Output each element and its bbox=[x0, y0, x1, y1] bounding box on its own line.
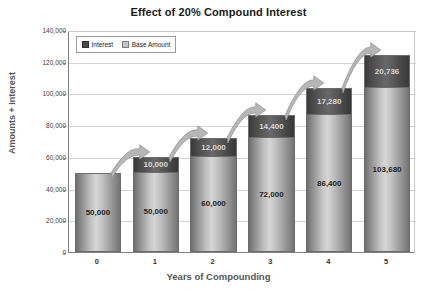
x-tick-label: 3 bbox=[250, 257, 290, 266]
bar-value-label-interest: 10,000 bbox=[144, 160, 168, 169]
x-tick-label: 5 bbox=[366, 257, 406, 266]
bar-group[interactable]: 14,40072,000 bbox=[248, 115, 294, 252]
chart-title: Effect of 20% Compound Interest bbox=[0, 6, 437, 18]
y-tick-label: 60,000 bbox=[6, 154, 66, 161]
bar-segment-base-amount[interactable]: 50,000 bbox=[133, 173, 179, 252]
y-tick-mark bbox=[63, 126, 66, 127]
bar-value-label-base-amount: 72,000 bbox=[259, 190, 283, 199]
y-tick-mark bbox=[63, 190, 66, 191]
y-tick-mark bbox=[63, 63, 66, 64]
y-tick-mark bbox=[63, 253, 66, 254]
y-tick-label: 120,000 bbox=[6, 59, 66, 66]
bar-segment-base-amount[interactable]: 72,000 bbox=[248, 138, 294, 252]
bar-value-label-interest: 14,400 bbox=[259, 122, 283, 131]
bar-segment-interest[interactable]: 17,280 bbox=[306, 88, 352, 115]
legend-label-base-amount: Base Amount bbox=[132, 41, 171, 48]
bar-value-label-interest: 20,736 bbox=[375, 67, 399, 76]
bar-group[interactable]: 50,000 bbox=[75, 173, 121, 252]
bar-segment-base-amount[interactable]: 103,680 bbox=[364, 88, 410, 252]
bar-group[interactable]: 20,736103,680 bbox=[364, 55, 410, 252]
legend-swatch-interest-icon bbox=[82, 41, 89, 48]
bar-value-label-interest: 12,000 bbox=[201, 143, 225, 152]
x-tick-label: 2 bbox=[193, 257, 233, 266]
y-tick-label: 80,000 bbox=[6, 122, 66, 129]
bar-segment-interest[interactable]: 10,000 bbox=[133, 157, 179, 173]
bar-segment-base-amount[interactable]: 50,000 bbox=[75, 173, 121, 252]
y-tick-mark bbox=[63, 221, 66, 222]
bar-value-label-base-amount: 103,680 bbox=[373, 165, 402, 174]
y-tick-label: 40,000 bbox=[6, 186, 66, 193]
legend-item-interest: Interest bbox=[82, 41, 113, 48]
legend-item-base-amount: Base Amount bbox=[122, 41, 170, 48]
y-tick-mark bbox=[63, 31, 66, 32]
bar-group[interactable]: 12,00060,000 bbox=[190, 138, 236, 252]
bar-group[interactable]: 10,00050,000 bbox=[133, 157, 179, 252]
bar-segment-interest[interactable]: 12,000 bbox=[190, 138, 236, 157]
bar-value-label-base-amount: 50,000 bbox=[86, 208, 110, 217]
legend-swatch-base-amount-icon bbox=[122, 41, 129, 48]
plot-area: 50,00010,00050,00012,00060,00014,40072,0… bbox=[68, 31, 415, 253]
y-tick-label: 0 bbox=[6, 249, 66, 256]
x-axis-title: Years of Compounding bbox=[0, 271, 437, 282]
legend-label-interest: Interest bbox=[92, 41, 114, 48]
y-tick-mark bbox=[63, 158, 66, 159]
x-tick-label: 4 bbox=[308, 257, 348, 266]
compound-interest-chart: Effect of 20% Compound Interest Amounts … bbox=[0, 0, 437, 303]
x-tick-label: 1 bbox=[135, 257, 175, 266]
bar-segment-base-amount[interactable]: 60,000 bbox=[190, 157, 236, 252]
y-axis-ticks: 140,000120,000100,00080,00060,00040,0002… bbox=[0, 31, 66, 253]
y-tick-label: 140,000 bbox=[6, 27, 66, 34]
y-tick-mark bbox=[63, 94, 66, 95]
gridline bbox=[69, 31, 416, 32]
x-tick-label: 0 bbox=[77, 257, 117, 266]
y-tick-label: 20,000 bbox=[6, 217, 66, 224]
bar-value-label-base-amount: 50,000 bbox=[144, 207, 168, 216]
bar-value-label-interest: 17,280 bbox=[317, 97, 341, 106]
bar-segment-interest[interactable]: 20,736 bbox=[364, 55, 410, 88]
bar-segment-base-amount[interactable]: 86,400 bbox=[306, 115, 352, 252]
chart-legend: Interest Base Amount bbox=[76, 36, 176, 53]
y-tick-label: 100,000 bbox=[6, 90, 66, 97]
bar-value-label-base-amount: 60,000 bbox=[201, 199, 225, 208]
bar-value-label-base-amount: 86,400 bbox=[317, 179, 341, 188]
bar-group[interactable]: 17,28086,400 bbox=[306, 88, 352, 252]
bar-segment-interest[interactable]: 14,400 bbox=[248, 115, 294, 138]
